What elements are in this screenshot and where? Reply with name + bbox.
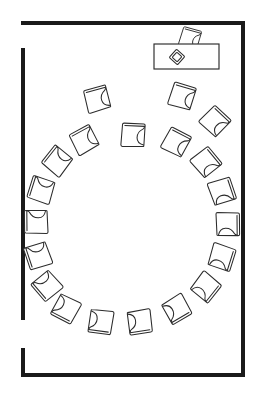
table-surface[interactable]	[154, 44, 219, 69]
floor-plan-root	[0, 0, 263, 400]
chair-13[interactable]	[23, 241, 53, 270]
chair-14[interactable]	[24, 210, 48, 233]
chair-5[interactable]	[216, 212, 240, 235]
chair-3[interactable]	[189, 146, 222, 179]
chair-18[interactable]	[167, 82, 196, 111]
floor-plan-drawing	[0, 0, 263, 400]
wall-bottom	[21, 373, 245, 377]
chair-17[interactable]	[68, 124, 100, 156]
chair-2[interactable]	[160, 126, 192, 158]
chair-8[interactable]	[161, 293, 193, 325]
chair-11[interactable]	[50, 293, 82, 325]
wall-left-lower	[21, 348, 25, 377]
wall-top	[21, 21, 245, 25]
chair-19[interactable]	[198, 105, 231, 138]
chair-1[interactable]	[121, 123, 145, 148]
wall-left-upper	[21, 48, 25, 320]
chair-4[interactable]	[207, 176, 237, 205]
chair-20[interactable]	[83, 85, 112, 114]
chair-15[interactable]	[26, 175, 56, 204]
chair-ring	[23, 82, 239, 336]
chair-16[interactable]	[41, 145, 74, 178]
chair-9[interactable]	[127, 309, 153, 336]
presenter-table[interactable]	[154, 26, 219, 69]
wall-right	[241, 21, 245, 377]
chair-7[interactable]	[189, 270, 222, 303]
chair-6[interactable]	[207, 242, 237, 271]
chair-10[interactable]	[88, 309, 114, 336]
